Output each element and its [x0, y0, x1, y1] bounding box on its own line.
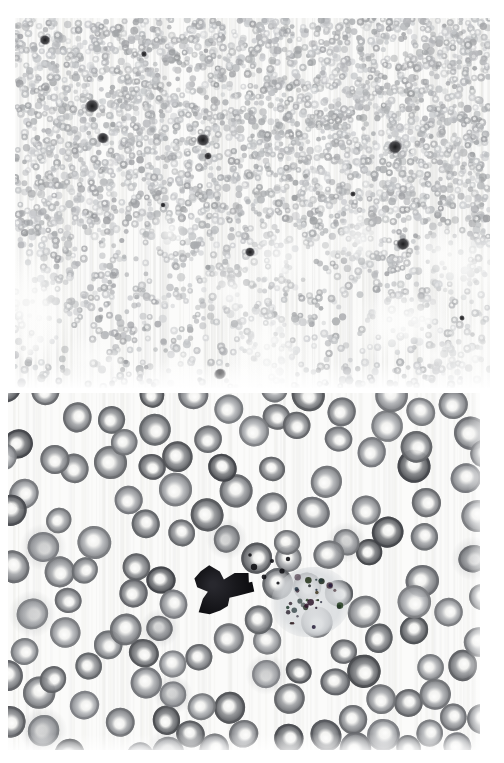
low-magnification-micrograph — [15, 18, 490, 388]
panel-high-magnification — [8, 393, 480, 750]
panel-low-magnification — [15, 18, 490, 388]
figure-root — [0, 0, 504, 763]
faint-header-text — [0, 1, 504, 13]
high-magnification-micrograph — [8, 393, 480, 750]
